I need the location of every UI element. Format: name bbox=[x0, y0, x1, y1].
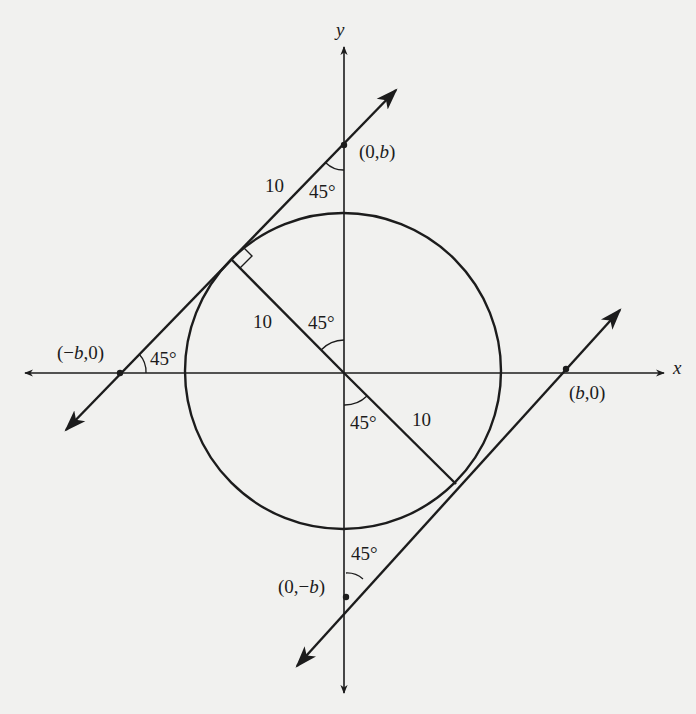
length-label-upper-radius: 10 bbox=[253, 312, 272, 331]
angle-arc-origin-upper bbox=[321, 340, 344, 350]
point-right bbox=[563, 366, 569, 372]
point-bottom bbox=[343, 594, 349, 600]
diagram-canvas: y x (0,b) (−b,0) (b,0) (0,−b) 10 10 10 4… bbox=[0, 0, 696, 714]
geometry-figure bbox=[0, 0, 696, 714]
angle-label-origin-upper: 45° bbox=[308, 313, 335, 332]
length-label-upper-tangent: 10 bbox=[265, 176, 284, 195]
point-top bbox=[341, 142, 347, 148]
point-label-left: (−b,0) bbox=[57, 343, 104, 362]
point-label-top: (0,b) bbox=[359, 142, 395, 161]
angle-label-top: 45° bbox=[309, 182, 336, 201]
angle-arc-top bbox=[326, 163, 344, 170]
point-label-right: (b,0) bbox=[569, 383, 605, 402]
point-left bbox=[117, 370, 123, 376]
angle-label-left: 45° bbox=[150, 349, 177, 368]
length-label-lower-radius: 10 bbox=[412, 410, 431, 429]
angle-label-origin-lower: 45° bbox=[350, 413, 377, 432]
angle-label-bottom: 45° bbox=[351, 544, 378, 563]
y-axis-label: y bbox=[336, 20, 344, 39]
x-axis-label: x bbox=[673, 358, 681, 377]
lower-tangent-line bbox=[297, 310, 620, 666]
point-label-bottom: (0,−b) bbox=[278, 577, 325, 596]
angle-arc-origin-lower bbox=[344, 396, 367, 405]
angle-arc-bottom bbox=[346, 573, 363, 579]
angle-arc-left bbox=[139, 354, 146, 373]
